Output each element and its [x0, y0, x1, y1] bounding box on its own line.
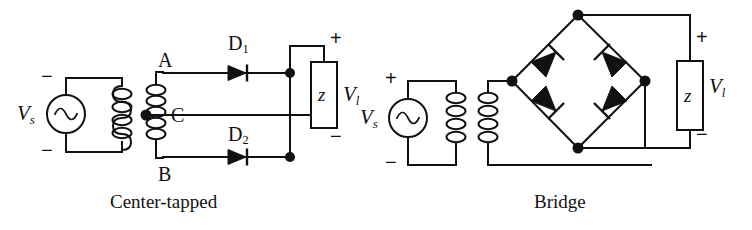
terminal-label-c: C — [171, 105, 184, 125]
center-tap-dot — [141, 110, 152, 121]
diode-bridge-upper-right — [594, 44, 627, 77]
load-terminal-bottom-right: − — [696, 124, 708, 144]
terminal-label-a: A — [158, 50, 172, 70]
load-label-left: z — [318, 85, 325, 104]
load-terminal-top-left: + — [330, 28, 342, 48]
caption-center-tapped: Center-tapped — [110, 192, 217, 211]
center-tapped-circuit — [47, 46, 337, 166]
load-terminal-top-right: + — [696, 27, 708, 47]
diode-label-d1: D1 — [228, 33, 249, 56]
bridge-output-wires — [578, 15, 690, 148]
source-terminal-top-right: + — [385, 68, 397, 88]
transformer-primary-left — [113, 78, 132, 152]
junction-dot — [573, 10, 584, 21]
junction-dot — [285, 68, 295, 78]
branch-a-left — [156, 72, 290, 73]
source-terminal-bottom-right: − — [385, 152, 397, 172]
source-label-left: Vs — [17, 103, 35, 126]
load-terminal-bottom-left: − — [330, 126, 342, 146]
figure-canvas: Vs − − A C B D1 D2 z Vl + − Center-tappe… — [0, 0, 752, 230]
ac-source-symbol-left — [47, 95, 85, 133]
junction-dot — [285, 152, 295, 162]
bridge-input-wires — [488, 81, 651, 165]
terminal-label-b: B — [158, 164, 171, 184]
source-terminal-bottom-left: − — [41, 140, 53, 160]
source-label-right: Vs — [360, 107, 378, 130]
diode-bridge-upper-left — [531, 44, 564, 77]
transformer-primary-right — [447, 81, 466, 165]
ac-source-symbol-right — [389, 99, 427, 137]
diode-label-d2: D2 — [228, 124, 249, 147]
diode-bridge-diamond — [512, 15, 645, 148]
source-terminal-top-left: − — [41, 66, 53, 86]
load-voltage-label-right: Vl — [709, 76, 725, 99]
transformer-secondary-right — [479, 81, 498, 165]
branch-b-left — [156, 157, 290, 158]
junction-dot — [573, 143, 584, 154]
diode-d1 — [228, 65, 247, 82]
load-label-right: z — [684, 86, 691, 105]
diode-bridge-lower-right — [594, 86, 627, 119]
caption-bridge: Bridge — [534, 192, 586, 211]
bridge-circuit — [389, 10, 703, 166]
junction-dot — [640, 76, 651, 87]
diode-bridge-lower-left — [531, 86, 564, 119]
diode-d2 — [228, 149, 247, 166]
junction-dot — [507, 76, 518, 87]
load-voltage-label-left: Vl — [343, 84, 359, 107]
